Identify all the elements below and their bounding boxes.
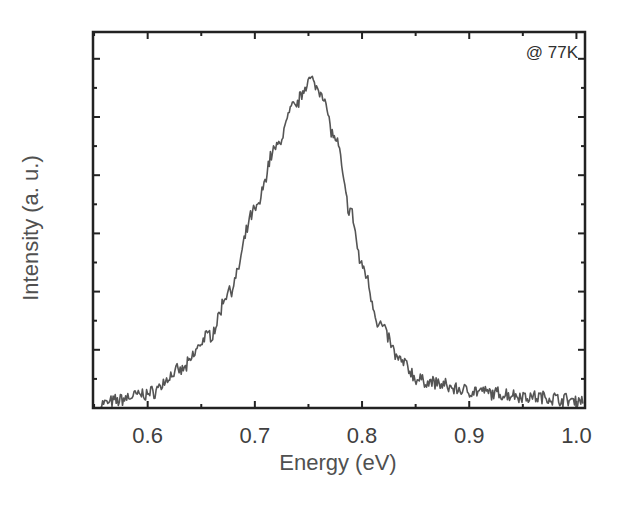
pl-spectrum-chart: 0.60.70.80.91.0 @ 77K Energy (eV) Intens… <box>0 0 619 511</box>
axis-ticks <box>93 32 585 408</box>
x-tick-label: 0.8 <box>347 423 378 448</box>
spectrum-line <box>101 76 583 407</box>
x-tick-labels: 0.60.70.80.91.0 <box>132 423 591 448</box>
y-axis-label: Intensity (a. u.) <box>18 155 43 301</box>
x-tick-label: 1.0 <box>561 423 592 448</box>
x-tick-label: 0.9 <box>454 423 485 448</box>
x-tick-label: 0.7 <box>240 423 271 448</box>
plot-frame <box>93 32 585 408</box>
temperature-annotation: @ 77K <box>526 43 579 62</box>
x-axis-label: Energy (eV) <box>279 450 396 475</box>
x-tick-label: 0.6 <box>132 423 163 448</box>
